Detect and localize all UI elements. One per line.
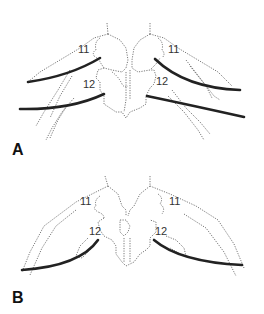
- panel-a-drawing: [20, 23, 244, 140]
- vertebra-label-11-right-b: 11: [169, 196, 180, 207]
- rib-vertebra-illustration: [0, 0, 264, 314]
- vertebra-label-11-left-a: 11: [78, 44, 89, 55]
- vertebra-label-11-right-a: 11: [168, 44, 179, 55]
- vertebra-label-12-left-a: 12: [83, 79, 95, 90]
- figure-canvas: 11 11 12 12 A 11 11 12 12 B: [0, 0, 264, 314]
- vertebra-label-11-left-b: 11: [80, 196, 91, 207]
- panel-b-drawing: [22, 176, 244, 276]
- panel-label-b: B: [12, 290, 24, 306]
- vertebra-label-12-left-b: 12: [89, 226, 101, 237]
- vertebra-label-12-right-b: 12: [155, 226, 167, 237]
- panel-label-a: A: [12, 142, 24, 158]
- vertebra-label-12-right-a: 12: [156, 76, 168, 87]
